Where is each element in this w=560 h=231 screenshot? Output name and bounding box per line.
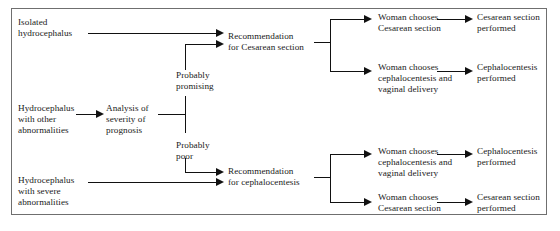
connector-poor-to-rec-cephalo xyxy=(185,172,218,173)
connector-rec-cesarean-split-bar xyxy=(330,19,331,72)
node-probably-poor: Probably poor xyxy=(176,140,210,162)
node-outcome-top-cephalocentesis-performed: Cephalocentesis performed xyxy=(477,62,537,84)
arrowhead-rec-cephalo-to-choice-cephalo xyxy=(364,150,372,158)
arrowhead-choice-top-cephalo-to-outcome xyxy=(465,67,473,75)
node-outcome-top-cesarean-section-performed: Cesarean section performed xyxy=(477,12,540,34)
connector-severe-to-rec-cephalo xyxy=(88,182,218,183)
connector-promising-to-rec-cesarean xyxy=(185,44,218,45)
connector-choice-top-cephalo-to-outcome xyxy=(437,71,467,72)
connector-rec-cesarean-to-choice-cesarean xyxy=(330,19,366,20)
arrowhead-choice-bottom-cephalo-to-outcome xyxy=(465,150,473,158)
connector-choice-top-cesarean-to-outcome xyxy=(437,19,467,20)
arrowhead-rec-cephalo-to-choice-cesarean xyxy=(364,198,372,206)
node-hydrocephalus-with-other-abnormalities: Hydrocephalus with other abnormalities xyxy=(18,103,74,137)
node-isolated-hydrocephalus: Isolated hydrocephalus xyxy=(18,17,72,39)
arrowhead-severe-to-rec-cephalo xyxy=(216,178,224,186)
connector-analysis-to-split xyxy=(158,114,186,115)
connector-choice-bottom-cephalo-to-outcome xyxy=(437,154,467,155)
node-hydrocephalus-with-severe-abnormalities: Hydrocephalus with severe abnormalities xyxy=(18,175,74,209)
arrowhead-choice-top-cesarean-to-outcome xyxy=(465,15,473,23)
node-analysis-of-severity-of-prognosis: Analysis of severity of prognosis xyxy=(106,103,149,137)
node-choice-bottom-cesarean-section: Woman chooses Cesarean section xyxy=(378,192,441,214)
node-recommendation-for-cesarean-section: Recommendation for Cesarean section xyxy=(228,31,304,53)
connector-rec-cephalo-split-bar xyxy=(330,154,331,203)
arrowhead-promising-to-rec-cesarean xyxy=(216,40,224,48)
arrowhead-poor-to-rec-cephalo xyxy=(216,168,224,176)
connector-rec-cephalo-to-choice-cephalo xyxy=(330,154,366,155)
node-choice-top-cesarean-section: Woman chooses Cesarean section xyxy=(378,12,441,34)
node-outcome-bottom-cesarean-section-performed: Cesarean section performed xyxy=(477,192,540,214)
flowchart-figure: Isolated hydrocephalus Hydrocephalus wit… xyxy=(0,0,560,231)
arrowhead-isolated-to-rec-cesarean xyxy=(216,29,224,37)
node-choice-bottom-cephalocentesis: Woman chooses cephalocentesis and vagina… xyxy=(378,146,452,180)
node-choice-top-cephalocentesis: Woman chooses cephalocentesis and vagina… xyxy=(378,62,452,96)
arrowhead-rec-cesarean-to-choice-cephalo xyxy=(364,67,372,75)
arrowhead-rec-cesarean-to-choice-cesarean xyxy=(364,15,372,23)
node-outcome-bottom-cephalocentesis-performed: Cephalocentesis performed xyxy=(477,146,537,168)
node-probably-promising: Probably promising xyxy=(176,70,214,92)
arrowhead-other-to-analysis xyxy=(96,110,104,118)
arrowhead-choice-bottom-cesarean-to-outcome xyxy=(465,198,473,206)
connector-rec-cephalo-stem xyxy=(314,177,331,178)
connector-promising-vertical xyxy=(185,44,186,70)
connector-isolated-to-rec-cesarean xyxy=(88,33,218,34)
connector-other-to-analysis xyxy=(76,114,98,115)
connector-choice-bottom-cesarean-to-outcome xyxy=(437,202,467,203)
connector-prognosis-split-bar xyxy=(185,96,186,133)
connector-rec-cephalo-to-choice-cesarean xyxy=(330,202,366,203)
node-recommendation-for-cephalocentesis: Recommendation for cephalocentesis xyxy=(228,166,300,188)
connector-rec-cesarean-stem xyxy=(314,42,331,43)
connector-rec-cesarean-to-choice-cephalo xyxy=(330,71,366,72)
